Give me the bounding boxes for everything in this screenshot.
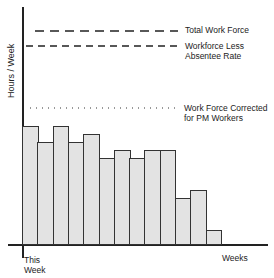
bar	[68, 142, 85, 245]
y-axis-label: Hours / Week	[6, 44, 16, 98]
bar	[99, 158, 116, 245]
x-start-label-2: Week	[24, 265, 46, 275]
bar	[160, 150, 177, 245]
bar	[37, 142, 54, 245]
bar	[129, 158, 146, 245]
label-pm-1: Work Force Corrected	[184, 103, 267, 113]
bar	[175, 198, 192, 245]
bar	[114, 150, 131, 245]
bar	[83, 134, 100, 245]
bar	[22, 126, 39, 245]
bar	[190, 190, 207, 245]
label-absentee-2: Absentee Rate	[185, 51, 241, 61]
bar	[206, 230, 223, 245]
bar	[53, 126, 70, 245]
label-total-work-force: Total Work Force	[185, 25, 249, 35]
bar	[144, 150, 161, 245]
label-pm-2: for PM Workers	[184, 113, 243, 123]
x-axis-label: Weeks	[222, 253, 248, 263]
x-start-label-1: This	[24, 255, 40, 265]
label-absentee-1: Workforce Less	[185, 41, 244, 51]
